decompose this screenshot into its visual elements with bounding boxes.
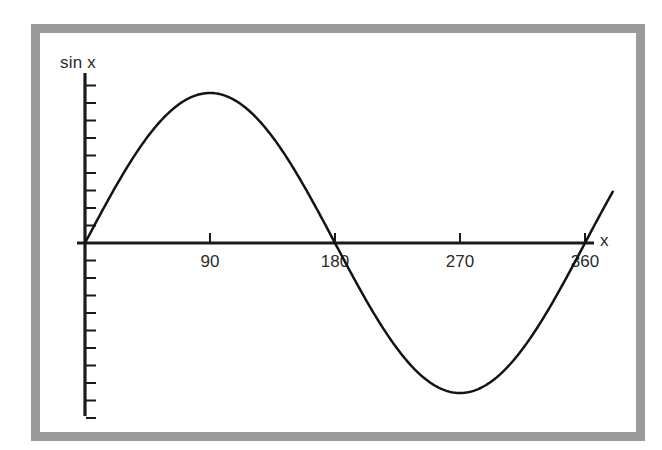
figure-root: 90180270360 sin x x	[0, 0, 662, 450]
x-axis-tick-labels: 90180270360	[201, 252, 600, 271]
y-axis	[85, 73, 96, 418]
y-axis-tick-marks	[86, 86, 96, 419]
sine-curve-plot: 90180270360	[0, 0, 662, 450]
x-axis-tick-label: 270	[446, 252, 474, 271]
x-axis-tick-marks	[210, 233, 585, 242]
plot-area: 90180270360	[0, 0, 662, 450]
x-axis-tick-label: 90	[201, 252, 220, 271]
y-axis-label: sin x	[60, 53, 96, 73]
x-axis-label: x	[600, 231, 609, 251]
x-axis: 90180270360	[77, 233, 599, 271]
